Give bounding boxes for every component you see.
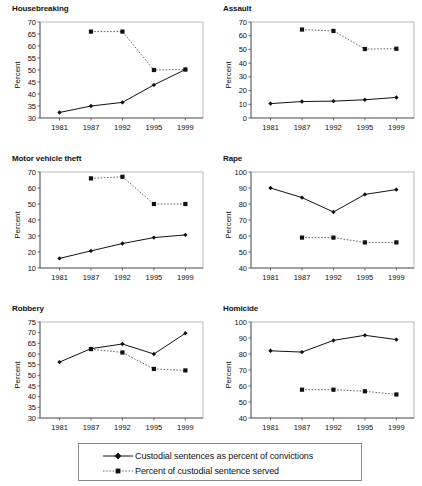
data-point-marker [331, 338, 335, 342]
chart-grid: HousebreakingPercent30354045505560657019… [0, 0, 422, 440]
data-point-marker [89, 30, 93, 34]
x-tick-label: 1999 [177, 423, 194, 432]
y-tick-label: 55 [28, 54, 36, 63]
y-tick-label: 50 [239, 45, 247, 54]
data-point-marker [57, 360, 61, 364]
data-point-marker [394, 240, 398, 244]
chart-panel-motor-vehicle-theft: Motor vehicle theftPercent10203040506070… [0, 150, 211, 300]
chart-panel-robbery: RobberyPercent30354045505560657075198119… [0, 300, 211, 450]
x-tick-label: 1987 [294, 273, 311, 282]
data-point-marker [300, 195, 304, 199]
data-point-marker [152, 68, 156, 72]
x-tick-label: 1992 [114, 123, 131, 132]
x-tick-label: 1987 [83, 423, 100, 432]
x-tick-label: 1995 [146, 273, 163, 282]
x-tick-label: 1981 [51, 423, 68, 432]
data-point-marker [120, 342, 124, 346]
data-point-marker [331, 29, 335, 33]
y-tick-label: 100 [234, 318, 247, 327]
plot-area: 1020304050607019811987199219951999 [0, 150, 211, 300]
y-tick-label: 80 [239, 350, 247, 359]
y-tick-label: 70 [28, 328, 36, 337]
series-line-1 [302, 238, 396, 243]
data-point-marker [394, 187, 398, 191]
y-tick-label: 10 [239, 100, 247, 109]
data-point-marker [152, 202, 156, 206]
y-tick-label: 70 [239, 366, 247, 375]
data-point-marker [394, 47, 398, 51]
x-tick-label: 1995 [357, 273, 374, 282]
data-point-marker [120, 30, 124, 34]
y-tick-label: 60 [28, 184, 36, 193]
data-point-marker [183, 67, 187, 71]
series-line-0 [60, 235, 186, 259]
plot-area: 40506070809010019811987199219951999 [211, 300, 422, 450]
y-tick-label: 40 [28, 216, 36, 225]
y-tick-label: 60 [28, 42, 36, 51]
legend-item-sentence-served: Percent of custodial sentence served [101, 463, 361, 478]
y-tick-label: 70 [239, 216, 247, 225]
data-point-marker [120, 100, 124, 104]
plot-area: 01020304050607019811987199219951999 [211, 0, 422, 150]
x-tick-label: 1995 [357, 423, 374, 432]
figure-legend: Custodial sentences as percent of convic… [78, 443, 362, 481]
legend-key-solid-line-icon [101, 450, 135, 462]
x-tick-label: 1987 [83, 273, 100, 282]
y-tick-label: 40 [28, 392, 36, 401]
data-point-marker [183, 233, 187, 237]
x-tick-label: 1999 [388, 123, 405, 132]
y-tick-label: 100 [234, 168, 247, 177]
x-tick-label: 1995 [357, 123, 374, 132]
y-tick-label: 70 [28, 168, 36, 177]
x-tick-label: 1999 [388, 273, 405, 282]
y-tick-label: 40 [28, 90, 36, 99]
y-tick-label: 45 [28, 78, 36, 87]
y-tick-label: 50 [28, 371, 36, 380]
y-tick-label: 30 [28, 414, 36, 423]
x-tick-label: 1987 [83, 123, 100, 132]
data-point-marker [363, 192, 367, 196]
data-point-marker [363, 98, 367, 102]
data-point-marker [300, 350, 304, 354]
y-tick-label: 0 [243, 114, 247, 123]
y-tick-label: 50 [28, 66, 36, 75]
y-tick-label: 40 [239, 264, 247, 273]
data-point-marker [89, 176, 93, 180]
series-line-1 [302, 30, 396, 49]
data-point-marker [394, 337, 398, 341]
chart-panel-housebreaking: HousebreakingPercent30354045505560657019… [0, 0, 211, 150]
data-point-marker [300, 99, 304, 103]
x-tick-label: 1981 [51, 273, 68, 282]
series-line-1 [91, 177, 185, 204]
y-tick-label: 20 [239, 86, 247, 95]
x-tick-label: 1992 [114, 423, 131, 432]
data-point-marker [300, 27, 304, 31]
legend-label-sentence-served: Percent of custodial sentence served [135, 466, 279, 476]
x-tick-label: 1999 [388, 423, 405, 432]
y-tick-label: 90 [239, 334, 247, 343]
x-tick-label: 1987 [294, 423, 311, 432]
x-tick-label: 1992 [325, 273, 342, 282]
data-point-marker [120, 175, 124, 179]
y-tick-label: 45 [28, 382, 36, 391]
data-point-marker [268, 349, 272, 353]
data-point-marker [331, 210, 335, 214]
series-line-0 [60, 333, 186, 362]
x-tick-label: 1981 [262, 123, 279, 132]
chart-panel-homicide: HomicidePercent4050607080901001981198719… [211, 300, 422, 450]
data-point-marker [331, 99, 335, 103]
data-point-marker [363, 47, 367, 51]
y-tick-label: 65 [28, 30, 36, 39]
data-point-marker [331, 388, 335, 392]
x-tick-label: 1992 [325, 423, 342, 432]
y-tick-label: 60 [28, 350, 36, 359]
data-point-marker [394, 392, 398, 396]
data-point-marker [120, 241, 124, 245]
y-tick-label: 60 [239, 382, 247, 391]
data-point-marker [183, 368, 187, 372]
x-tick-label: 1995 [146, 423, 163, 432]
x-tick-label: 1987 [294, 123, 311, 132]
y-tick-label: 40 [239, 59, 247, 68]
y-tick-label: 50 [239, 398, 247, 407]
plot-area: 30354045505560657019811987199219951999 [0, 0, 211, 150]
